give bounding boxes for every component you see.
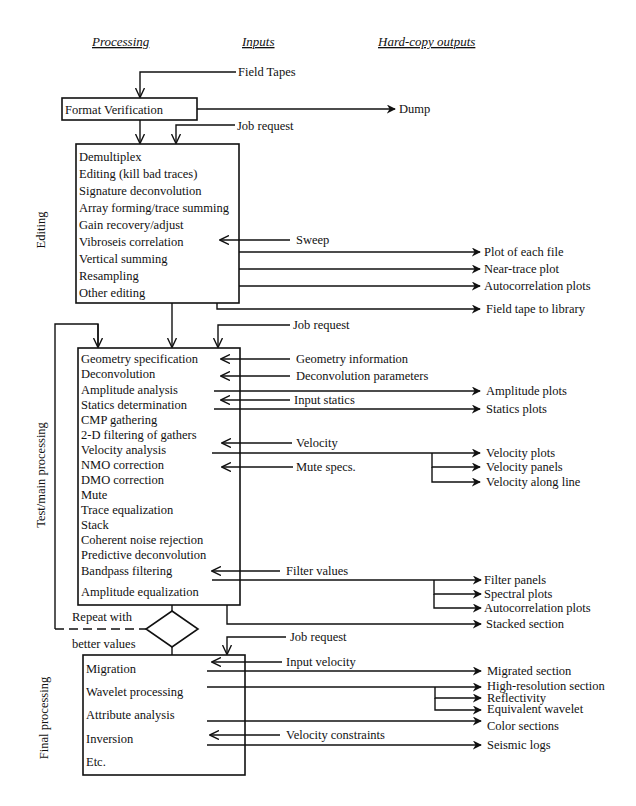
output-migrated-section: Migrated section xyxy=(487,664,572,678)
header-inputs: Inputs xyxy=(241,34,275,49)
input-filter-values: Filter values xyxy=(286,564,348,578)
job-request-1-arrow xyxy=(176,125,235,143)
final-item: Etc. xyxy=(86,755,106,769)
output-equivalent-wavelet: Equivalent wavelet xyxy=(487,702,584,716)
input-field-tapes: Field Tapes xyxy=(238,65,296,79)
output-filter-panels: Filter panels xyxy=(484,573,546,587)
decision-label-bottom: better values xyxy=(72,637,136,651)
repeat-decision-diamond xyxy=(146,611,198,647)
velocity-along-line-arrow xyxy=(432,467,480,482)
input-deconvolution-parameters: Deconvolution parameters xyxy=(296,369,428,383)
output-autocorrelation-plots-2: Autocorrelation plots xyxy=(484,601,591,615)
output-field-tape-to-library: Field tape to library xyxy=(486,302,586,316)
test-item: Coherent noise rejection xyxy=(81,533,204,547)
editing-item: Other editing xyxy=(79,286,146,300)
field-tapes-arrow xyxy=(140,72,236,97)
output-plot-of-each-file: Plot of each file xyxy=(484,245,564,259)
format-verification-label: Format Verification xyxy=(65,103,164,117)
test-item: Mute xyxy=(81,488,108,502)
job-request-3-arrow xyxy=(227,637,286,654)
side-label-final: Final processing xyxy=(37,676,51,759)
output-near-trace-plot: Near-trace plot xyxy=(484,262,560,276)
output-color-sections: Color sections xyxy=(487,719,559,733)
output-dump: Dump xyxy=(399,102,430,116)
input-input-velocity: Input velocity xyxy=(286,655,357,669)
editing-item: Array forming/trace summing xyxy=(79,201,230,215)
test-item: Geometry specification xyxy=(81,352,199,366)
processing-flowchart: Processing Inputs Hard-copy outputs Fiel… xyxy=(0,0,636,806)
editing-item: Gain recovery/adjust xyxy=(79,218,184,232)
input-job-request-2: Job request xyxy=(293,318,350,332)
input-mute-specs: Mute specs. xyxy=(296,460,356,474)
side-label-editing: Editing xyxy=(34,211,48,249)
velocity-panels-arrow xyxy=(432,453,480,467)
input-input-statics: Input statics xyxy=(294,393,355,407)
input-sweep: Sweep xyxy=(296,233,329,247)
test-item: Stack xyxy=(81,518,110,532)
output-velocity-panels: Velocity panels xyxy=(486,460,563,474)
reflectivity-arrow xyxy=(435,687,481,698)
test-item: Velocity analysis xyxy=(81,443,166,457)
equivalent-wavelet-arrow xyxy=(435,698,481,710)
spectral-plots-arrow xyxy=(434,580,481,594)
test-item: DMO correction xyxy=(81,473,165,487)
editing-item: Signature deconvolution xyxy=(79,184,202,198)
editing-item: Vertical summing xyxy=(79,252,168,266)
final-item: Wavelet processing xyxy=(86,685,184,699)
output-amplitude-plots: Amplitude plots xyxy=(486,384,567,398)
test-item: Predictive deconvolution xyxy=(81,548,207,562)
test-item: Statics determination xyxy=(81,398,188,412)
job-request-2-arrow xyxy=(218,325,290,347)
output-statics-plots: Statics plots xyxy=(486,402,547,416)
editing-item: Demultiplex xyxy=(79,150,142,164)
editing-item: Vibroseis correlation xyxy=(79,235,184,249)
spectral-autocorr-arrow xyxy=(434,594,481,608)
test-item: Trace equalization xyxy=(81,503,174,517)
header-hard-copy-outputs: Hard-copy outputs xyxy=(377,34,475,49)
input-velocity-constraints: Velocity constraints xyxy=(286,728,385,742)
input-job-request-3: Job request xyxy=(290,630,347,644)
editing-item: Resampling xyxy=(79,269,139,283)
decision-label-top: Repeat with xyxy=(72,610,133,624)
test-item: Amplitude analysis xyxy=(81,383,178,397)
test-item: Bandpass filtering xyxy=(81,564,173,578)
output-spectral-plots: Spectral plots xyxy=(484,587,553,601)
test-item: CMP gathering xyxy=(81,413,158,427)
field-tape-library-arrow xyxy=(217,303,480,309)
header-processing: Processing xyxy=(91,34,150,49)
final-item: Inversion xyxy=(86,732,134,746)
input-job-request-1: Job request xyxy=(237,119,294,133)
test-item: Deconvolution xyxy=(81,367,156,381)
editing-item: Editing (kill bad traces) xyxy=(79,167,197,181)
input-velocity: Velocity xyxy=(296,436,338,450)
final-item: Migration xyxy=(86,662,137,676)
output-stacked-section: Stacked section xyxy=(486,617,565,631)
test-item: NMO correction xyxy=(81,458,165,472)
side-label-test-main: Test/main processing xyxy=(34,421,48,527)
output-seismic-logs: Seismic logs xyxy=(487,738,551,752)
output-velocity-along-line: Velocity along line xyxy=(486,475,581,489)
test-item: Amplitude equalization xyxy=(81,585,199,599)
input-geometry-information: Geometry information xyxy=(296,352,409,366)
output-autocorrelation-plots-1: Autocorrelation plots xyxy=(484,279,591,293)
test-item: 2-D filtering of gathers xyxy=(81,428,197,442)
output-velocity-plots: Velocity plots xyxy=(486,446,555,460)
final-item: Attribute analysis xyxy=(86,708,175,722)
